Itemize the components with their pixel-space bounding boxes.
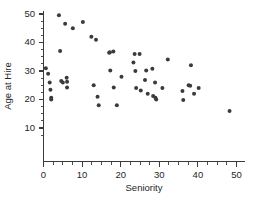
data-point bbox=[49, 98, 53, 102]
data-point bbox=[189, 63, 193, 67]
data-point bbox=[139, 88, 143, 92]
data-point bbox=[144, 68, 148, 72]
data-point bbox=[44, 66, 48, 70]
data-points-layer bbox=[44, 13, 232, 113]
scatter-plot-figure: 1020304050 01020304050 Seniority Age at … bbox=[0, 0, 258, 200]
x-axis-ticks bbox=[44, 162, 237, 168]
x-axis-tick-labels: 01020304050 bbox=[41, 169, 242, 180]
y-tick-label: 30 bbox=[24, 65, 35, 76]
x-tick-label: 20 bbox=[115, 169, 126, 180]
data-point bbox=[48, 88, 52, 92]
data-point bbox=[108, 50, 112, 54]
data-point bbox=[57, 13, 61, 17]
data-point bbox=[81, 20, 85, 24]
data-point bbox=[94, 38, 98, 42]
data-point bbox=[46, 72, 50, 76]
data-point bbox=[71, 26, 75, 30]
data-point bbox=[65, 86, 69, 90]
data-point bbox=[65, 80, 69, 84]
data-point bbox=[61, 80, 65, 84]
data-point bbox=[65, 76, 69, 80]
axis-lines bbox=[44, 11, 246, 162]
data-point bbox=[181, 98, 185, 102]
x-tick-label: 10 bbox=[77, 169, 88, 180]
data-point bbox=[143, 78, 147, 82]
data-point bbox=[138, 52, 142, 56]
data-point bbox=[160, 86, 164, 90]
x-tick-label: 0 bbox=[41, 169, 46, 180]
data-point bbox=[146, 92, 150, 96]
data-point bbox=[115, 103, 119, 107]
data-point bbox=[133, 69, 137, 73]
y-tick-label: 20 bbox=[24, 93, 35, 104]
data-point bbox=[112, 86, 116, 90]
data-point bbox=[58, 49, 62, 53]
plot-canvas: 1020304050 01020304050 Seniority Age at … bbox=[0, 0, 258, 200]
y-axis-title: Age at Hire bbox=[2, 62, 13, 110]
y-tick-label: 50 bbox=[24, 8, 35, 19]
data-point bbox=[48, 80, 52, 84]
x-tick-label: 50 bbox=[231, 169, 242, 180]
y-tick-label: 10 bbox=[24, 122, 35, 133]
data-point bbox=[97, 103, 101, 107]
data-point bbox=[119, 75, 123, 79]
y-tick-label: 40 bbox=[24, 36, 35, 47]
data-point bbox=[188, 84, 192, 88]
y-axis-tick-labels: 1020304050 bbox=[24, 8, 35, 133]
data-point bbox=[134, 86, 138, 90]
data-point bbox=[197, 86, 201, 90]
data-point bbox=[154, 98, 158, 102]
y-axis-ticks bbox=[39, 14, 44, 135]
x-tick-label: 30 bbox=[154, 169, 165, 180]
x-axis-title: Seniority bbox=[126, 182, 163, 193]
data-point bbox=[89, 35, 93, 39]
x-tick-label: 40 bbox=[193, 169, 204, 180]
data-point bbox=[166, 58, 170, 62]
data-point bbox=[150, 67, 154, 71]
data-point bbox=[228, 109, 232, 113]
data-point bbox=[92, 83, 96, 87]
data-point bbox=[192, 92, 196, 96]
data-point bbox=[131, 60, 135, 64]
data-point bbox=[180, 89, 184, 93]
data-point bbox=[96, 95, 100, 99]
data-point bbox=[108, 68, 112, 72]
data-point bbox=[133, 52, 137, 56]
data-point bbox=[63, 22, 67, 26]
data-point bbox=[111, 50, 115, 54]
data-point bbox=[153, 80, 157, 84]
